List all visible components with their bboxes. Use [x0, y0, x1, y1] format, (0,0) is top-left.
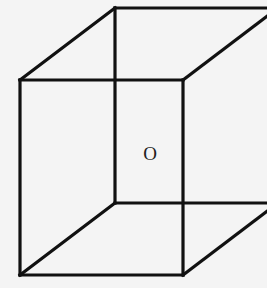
connecting-edges	[20, 8, 267, 275]
front-face	[20, 80, 183, 275]
center-label-o: O	[143, 143, 157, 164]
back-face	[115, 8, 267, 203]
bottom-left-connector	[20, 203, 115, 275]
top-left-connector	[20, 8, 115, 80]
cube-diagram: O	[0, 0, 267, 288]
top-right-connector	[183, 8, 267, 80]
bottom-right-connector	[183, 203, 267, 275]
